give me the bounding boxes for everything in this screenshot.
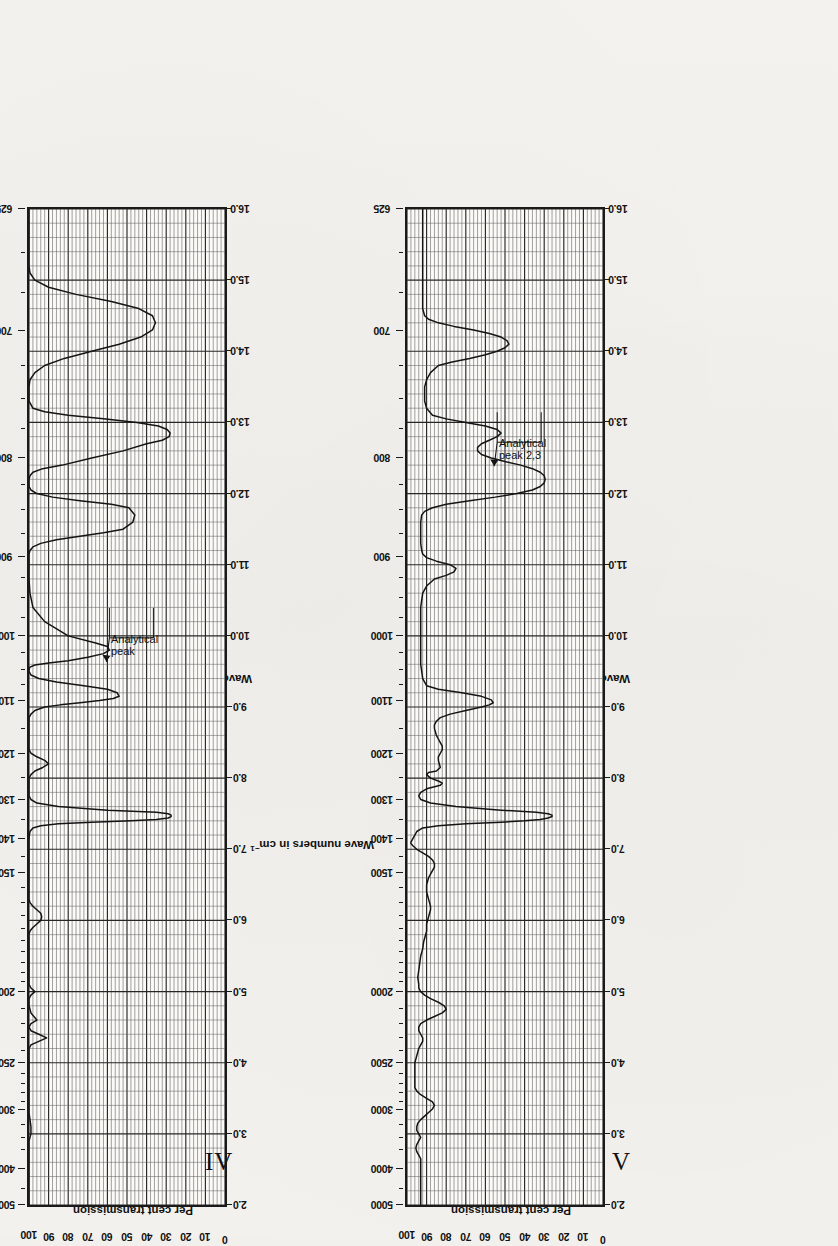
wavenumber-minor-tickmark (21, 1109, 25, 1110)
wavenumber-minor-tickmark (399, 685, 403, 686)
wavenumber-minor-tickmark (21, 617, 25, 618)
wavenumber-tick-700: 700 (0, 325, 12, 337)
wavenumber-minor-tickmark (21, 1137, 25, 1138)
wavelength-tick-10.0: 10.0 (608, 630, 627, 642)
wavenumber-minor-tickmark (399, 902, 403, 903)
wavelength-tick-5.0: 5.0 (233, 986, 247, 998)
wavenumber-minor-tickmark (21, 981, 25, 982)
wavenumber-minor-tickmark (399, 484, 403, 485)
wavelength-tick-15.0: 15.0 (230, 274, 249, 286)
wavenumber-minor-tickmark (399, 457, 403, 458)
transmission-tick-10: 10 (200, 1231, 211, 1243)
wavelength-tickmark (604, 208, 610, 209)
transmission-tick-90: 90 (43, 1231, 54, 1243)
wavelength-tickmark (226, 777, 232, 778)
transmission-tick-100: 100 (399, 1229, 416, 1241)
wavenumber-minor-tickmark (399, 1149, 403, 1150)
wavenumber-minor-tickmark (21, 1037, 25, 1038)
wavenumber-minor-tickmark (399, 669, 403, 670)
transmission-tick-30: 30 (539, 1231, 550, 1243)
wavenumber-minor-tickmark (399, 700, 403, 701)
wavenumber-minor-tickmark (399, 972, 403, 973)
wavenumber-minor-tickmark (399, 533, 403, 534)
wavenumber-minor-tickmark (399, 652, 403, 653)
wavenumber-minor-tickmark (399, 1050, 403, 1051)
wavelength-tickmark (604, 848, 610, 849)
wavelength-tick-9.0: 9.0 (233, 701, 247, 713)
wavenumber-tick-2000: 2000 (0, 986, 15, 998)
wavenumber-minor-tickmark (399, 597, 403, 598)
wavenumber-minor-tickmark (399, 915, 403, 916)
wavenumber-minor-tickmark (21, 991, 25, 992)
transmission-tick-30: 30 (161, 1231, 172, 1243)
wavenumber-minor-tickmark (399, 981, 403, 982)
wavelength-tick-7.0: 7.0 (611, 843, 625, 855)
wavenumber-tick-800: 800 (0, 452, 12, 464)
wavelength-tick-11.0: 11.0 (231, 559, 250, 571)
transmission-tick-0: 0 (222, 1234, 228, 1246)
wavelength-tickmark (226, 848, 232, 849)
wavenumber-tick-1100: 1100 (371, 695, 393, 707)
wavenumber-tick-3000: 3000 (0, 1104, 15, 1116)
wavenumber-minor-tickmark (21, 509, 25, 510)
wavenumber-minor-tickmark (21, 457, 25, 458)
wavelength-tick-14.0: 14.0 (230, 345, 249, 357)
wavelength-tickmark (604, 279, 610, 280)
wavelength-tickmark (226, 279, 232, 280)
wavenumber-minor-tickmark (399, 617, 403, 618)
transmission-tick-40: 40 (519, 1231, 530, 1243)
transmission-axis-title-V: Per cent transmission (451, 1205, 571, 1217)
wavenumber-tick-1500: 1500 (371, 867, 393, 879)
wavenumber-minor-tickmark (21, 685, 25, 686)
transmission-tick-70: 70 (460, 1231, 471, 1243)
figure-caption-V: V (612, 1148, 631, 1176)
wavenumber-minor-tickmark (399, 753, 403, 754)
wavenumber-minor-tickmark (399, 1101, 403, 1102)
wavelength-tick-8.0: 8.0 (233, 772, 247, 784)
wavelength-tick-7.0: 7.0 (233, 843, 247, 855)
wavelength-tickmark (604, 350, 610, 351)
wavelength-tickmark (604, 564, 610, 565)
plot-wrap-IV: Wave numbers in cm−1 Wavelength in micro… (0, 207, 260, 1237)
wavelength-tickmark (604, 421, 610, 422)
wavelength-tick-6.0: 6.0 (233, 914, 247, 926)
wavenumber-minor-tickmark (21, 1101, 25, 1102)
wavelength-tick-9.0: 9.0 (611, 701, 625, 713)
wavenumber-tick-800: 800 (374, 452, 391, 464)
wavenumber-minor-tickmark (399, 1188, 403, 1189)
wavenumber-minor-tickmark (399, 1109, 403, 1110)
wavenumber-minor-tickmark (399, 928, 403, 929)
wavenumber-minor-tickmark (399, 1023, 403, 1024)
wavenumber-tick-1000: 1000 (0, 630, 15, 642)
wavelength-tick-15.0: 15.0 (608, 274, 627, 286)
wavenumber-minor-tickmark (399, 872, 403, 873)
wavenumber-minor-tickmark (399, 509, 403, 510)
annotation-line-2: peak (111, 645, 158, 657)
wavelength-tickmark (604, 706, 610, 707)
wavenumber-minor-tickmark (21, 928, 25, 929)
wavenumber-minor-tickmark (21, 252, 25, 253)
wavelength-tickmark (226, 564, 232, 565)
wavenumber-minor-tickmark (399, 428, 403, 429)
wavenumber-minor-tickmark (21, 635, 25, 636)
wavenumber-minor-tickmark (399, 398, 403, 399)
wavenumber-minor-tickmark (399, 635, 403, 636)
wavelength-tick-3.0: 3.0 (233, 1128, 247, 1140)
wavenumber-minor-tickmark (399, 887, 403, 888)
figure-IV: Wave numbers in cm−1 Wavelength in micro… (0, 207, 260, 1237)
wavenumber-minor-tickmark (21, 915, 25, 916)
transmission-tick-10: 10 (578, 1231, 589, 1243)
wavenumber-minor-tickmark (21, 1062, 25, 1063)
wavenumber-minor-tickmark (21, 398, 25, 399)
wavenumber-tick-2500: 2500 (0, 1057, 15, 1069)
wavelength-tick-3.0: 3.0 (611, 1128, 625, 1140)
wavenumber-minor-tickmark (399, 819, 403, 820)
wavelength-tick-13.0: 13.0 (608, 416, 627, 428)
wavenumber-minor-tickmark (21, 1092, 25, 1093)
wavenumber-tick-1000: 1000 (371, 630, 393, 642)
wavenumber-tick-5000: 5000 (0, 1199, 15, 1211)
transmission-tick-70: 70 (82, 1231, 93, 1243)
wavelength-tickmark (226, 208, 232, 209)
transmission-tick-20: 20 (180, 1231, 191, 1243)
wavelength-tickmark (604, 1062, 610, 1063)
